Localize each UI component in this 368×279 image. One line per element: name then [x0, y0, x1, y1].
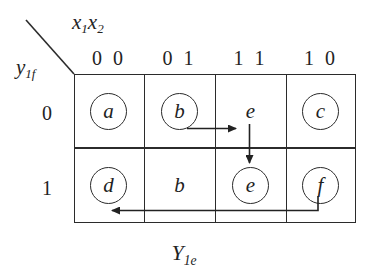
- grid-vline-1: [144, 75, 146, 222]
- cell-row1-col3: f: [302, 167, 339, 204]
- cell-row0-col3: c: [302, 93, 339, 130]
- row-header-0: 0: [30, 103, 64, 123]
- grid-vline-3: [286, 75, 288, 222]
- output-label: Y1e: [0, 240, 368, 266]
- cell-row1-col2: e: [232, 167, 269, 204]
- cell-row0-col2: e: [232, 93, 269, 130]
- column-variable-label: x1x2: [72, 12, 104, 33]
- column-header-2: 1 1: [215, 48, 286, 68]
- column-header-3: 1 0: [286, 48, 356, 68]
- row-header-1: 1: [30, 178, 64, 198]
- cell-row1-col1: b: [161, 167, 198, 204]
- column-variable-x2: x2: [88, 10, 104, 34]
- flow-table-figure: x1x2 y1f 0 0 0 1 1 1 1 0 0 1 a b e c d b…: [0, 0, 368, 279]
- row-variable-label: y1f: [16, 57, 35, 78]
- grid-vline-2: [215, 75, 217, 222]
- cell-row1-col0: d: [90, 167, 127, 204]
- cell-row0-col0: a: [90, 93, 127, 130]
- column-header-1: 0 1: [144, 48, 215, 68]
- column-variable-x1: x1: [72, 10, 88, 34]
- grid-hline-1: [75, 147, 355, 149]
- cell-row0-col1: b: [161, 93, 198, 130]
- column-header-0: 0 0: [74, 48, 144, 68]
